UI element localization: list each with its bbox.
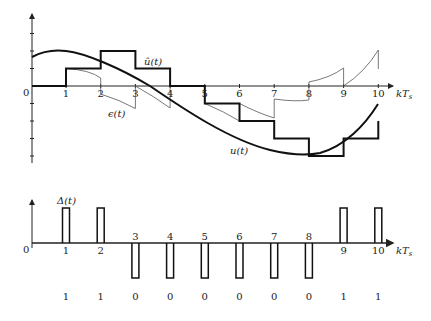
svg-text:5: 5 [202, 231, 208, 242]
svg-text:7: 7 [271, 88, 277, 99]
pulse-7 [271, 243, 278, 278]
svg-text:0: 0 [306, 291, 312, 302]
svg-text:6: 6 [236, 231, 242, 242]
pulse-6 [236, 243, 243, 278]
svg-text:9: 9 [340, 88, 346, 99]
bottom-x-axis-label: kTs [396, 245, 413, 258]
svg-text:1: 1 [340, 291, 346, 302]
top-origin-label: 0 [23, 87, 29, 98]
delta-label: Δ(t) [56, 195, 76, 206]
svg-text:8: 8 [306, 231, 312, 242]
svg-text:9: 9 [340, 245, 346, 256]
u-hat-staircase [32, 51, 378, 156]
svg-text:5: 5 [202, 88, 208, 99]
svg-text:1: 1 [98, 291, 104, 302]
svg-text:2: 2 [98, 88, 104, 99]
svg-text:1: 1 [63, 88, 69, 99]
pulse-4 [167, 243, 174, 278]
bottom-plot: 0 Δ(t) 1 2 3 4 5 6 7 8 9 10 kTs 1 1 0 0 … [23, 195, 413, 302]
pulse-10 [375, 208, 382, 243]
epsilon-label: ϵ(t) [108, 108, 126, 119]
svg-text:1: 1 [63, 291, 69, 302]
u-hat-label: û(t) [144, 56, 162, 67]
svg-text:7: 7 [271, 231, 277, 242]
bottom-origin-label: 0 [23, 244, 29, 255]
pulse-5 [201, 243, 208, 278]
svg-text:2: 2 [98, 245, 104, 256]
svg-text:0: 0 [202, 291, 208, 302]
svg-text:4: 4 [167, 88, 173, 99]
top-x-axis-label: kTs [396, 88, 413, 101]
svg-text:0: 0 [271, 291, 277, 302]
svg-text:3: 3 [132, 231, 138, 242]
svg-text:0: 0 [236, 291, 242, 302]
svg-text:6: 6 [236, 88, 242, 99]
svg-text:10: 10 [372, 245, 385, 256]
svg-text:3: 3 [132, 88, 138, 99]
svg-text:1: 1 [63, 245, 69, 256]
pulse-1 [63, 208, 70, 243]
pulse-3 [132, 243, 139, 278]
svg-text:10: 10 [372, 88, 385, 99]
svg-text:0: 0 [167, 291, 173, 302]
bit-sequence: 1 1 0 0 0 0 0 0 1 1 [63, 291, 382, 302]
delta-modulation-figure: 0 1 2 3 4 5 6 7 8 9 10 kTs û(t) ϵ(t) u(t… [0, 0, 431, 321]
u-label: u(t) [230, 145, 248, 156]
svg-text:1: 1 [375, 291, 381, 302]
top-plot: 0 1 2 3 4 5 6 7 8 9 10 kTs û(t) ϵ(t) u(t… [23, 14, 413, 163]
svg-text:8: 8 [306, 88, 312, 99]
svg-text:0: 0 [132, 291, 138, 302]
pulse-2 [97, 208, 104, 243]
svg-text:4: 4 [167, 231, 173, 242]
pulse-9 [340, 208, 347, 243]
pulse-8 [305, 243, 312, 278]
